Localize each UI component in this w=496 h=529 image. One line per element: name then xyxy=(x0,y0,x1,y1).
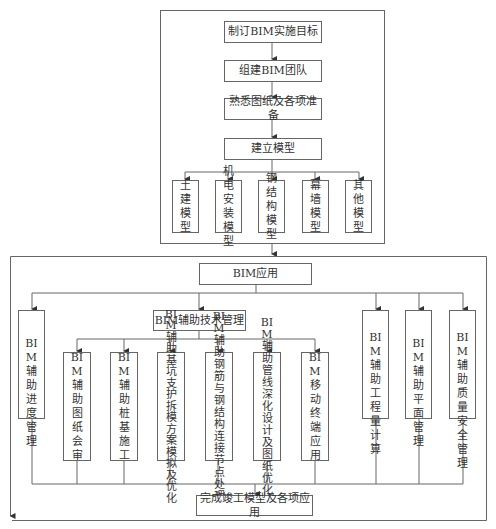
quality-safety-mgmt-label: BIM 辅助 质量 安全 管理 xyxy=(453,331,472,471)
tech-item-drawing-review: BIM 辅助 图纸 会审 xyxy=(63,352,91,461)
tech-item-pile-foundation-label: BIM 辅助 桩基 施工 xyxy=(114,351,134,463)
site-plan-mgmt: BIM 辅助 平面 管理 xyxy=(405,310,432,419)
tech-item-pit-support-label: BIM 辅助 基坑 支护 拆模 方案 模拟 及优 化 xyxy=(161,309,181,505)
model-curtain-wall-label: 幕墙 模型 xyxy=(306,179,325,235)
model-mep-label: 机电 安装 模型 xyxy=(219,165,238,249)
model-other: 其他 模型 xyxy=(345,180,372,233)
tech-item-rebar-steel-joints-label: BIM 辅助 钢筋 与钢 结构 连接 节点 处理 xyxy=(209,311,229,503)
final-completion: 完成竣工模型及各项应用 xyxy=(196,495,313,516)
final-completion-label: 完成竣工模型及各项应用 xyxy=(197,492,312,520)
progress-mgmt-label: BIM 辅助 进度 管理 xyxy=(22,337,41,449)
model-steel-label: 钢结 构模 型 xyxy=(262,172,281,242)
model-other-label: 其他 模型 xyxy=(349,179,368,235)
step-build-team: 组建BIM团队 xyxy=(224,60,322,82)
tech-item-drawing-review-label: BIM 辅助 图纸 会审 xyxy=(67,351,87,463)
tech-item-pit-support: BIM 辅助 基坑 支护 拆模 方案 模拟 及优 化 xyxy=(157,352,185,461)
progress-mgmt: BIM 辅助 进度 管理 xyxy=(18,310,45,419)
tech-item-mobile-terminal: BIM 移动 终端 应用 xyxy=(301,352,329,461)
tech-item-mobile-terminal-label: BIM 移动 终端 应用 xyxy=(305,351,325,463)
model-steel: 钢结 构模 型 xyxy=(258,180,285,233)
quantity-calc-label: BIM 辅助 工程 量计 算 xyxy=(366,331,385,457)
quantity-calc: BIM 辅助 工程 量计 算 xyxy=(362,310,389,419)
model-civil-label: 土建 模型 xyxy=(176,179,195,235)
bim-application: BIM应用 xyxy=(199,263,312,285)
tech-item-pile-foundation: BIM 辅助 桩基 施工 xyxy=(110,352,138,461)
bim-application-label: BIM应用 xyxy=(233,267,279,281)
step-preparation-label: 熟悉图纸及各项准备 xyxy=(225,95,321,123)
step-build-model-label: 建立模型 xyxy=(251,142,295,156)
step-build-team-label: 组建BIM团队 xyxy=(239,64,307,78)
model-mep: 机电 安装 模型 xyxy=(215,180,242,233)
model-civil: 土建 模型 xyxy=(172,180,199,233)
tech-item-pipeline-design-label: BIM 辅助 管线 深化 设计 及图 纸优 化 xyxy=(257,317,277,497)
site-plan-mgmt-label: BIM 辅助 平面 管理 xyxy=(409,337,428,449)
quality-safety-mgmt: BIM 辅助 质量 安全 管理 xyxy=(449,310,476,419)
step-set-goals: 制订BIM实施目标 xyxy=(224,21,322,43)
step-build-model: 建立模型 xyxy=(224,138,322,160)
tech-item-pipeline-design: BIM 辅助 管线 深化 设计 及图 纸优 化 xyxy=(253,352,281,461)
tech-item-rebar-steel-joints: BIM 辅助 钢筋 与钢 结构 连接 节点 处理 xyxy=(205,352,233,461)
step-preparation: 熟悉图纸及各项准备 xyxy=(224,98,322,120)
model-curtain-wall: 幕墙 模型 xyxy=(302,180,329,233)
step-set-goals-label: 制订BIM实施目标 xyxy=(228,25,318,39)
